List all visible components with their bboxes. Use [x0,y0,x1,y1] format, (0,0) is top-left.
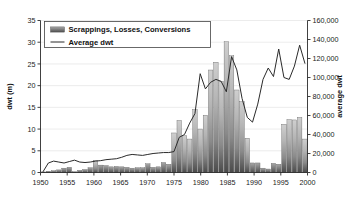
bar [93,160,98,172]
y-axis-title: dwt (m) [5,83,14,110]
bar [235,90,240,173]
x-axis-tick-label: 1970 [139,178,155,187]
y-axis-tick-label: 5 [32,146,36,155]
bar [130,168,135,172]
bar [135,168,140,173]
bar [187,139,192,172]
legend-label: Scrappings, Losses, Conversions [69,25,191,34]
x-axis-tick-label: 1955 [59,178,75,187]
bar [250,163,255,173]
y-axis-tick-label: 35 [28,16,36,25]
y2-axis-tick-label: 60,000 [313,111,335,120]
x-axis-tick-label: 1965 [113,178,129,187]
y2-axis-tick-label: 140,000 [313,35,339,44]
bar [167,164,172,172]
y-axis-tick-label: 20 [28,81,36,90]
bar [98,165,103,172]
x-axis-tick-label: 1960 [86,178,102,187]
x-axis-tick-label: 2000 [300,178,316,187]
x-axis-tick-label: 1990 [246,178,262,187]
bar [177,120,182,172]
bar [172,133,177,173]
bar [245,138,250,172]
y-axis-tick-label: 15 [28,103,36,112]
bar [229,56,234,173]
bar [146,164,151,173]
bar [282,124,287,172]
bar [114,166,119,172]
bar [125,167,130,172]
bar [287,120,292,173]
bar [193,110,198,173]
chart-canvas: 05101520253035020,00040,00060,00080,0001… [0,0,350,203]
chart-figure: 05101520253035020,00040,00060,00080,0001… [0,0,350,203]
bar [198,129,203,172]
y2-axis-title: average dwt [335,75,344,118]
legend-swatch-bar [51,27,65,32]
bar [256,163,261,173]
x-axis-tick-label: 1995 [273,178,289,187]
bar [161,163,166,173]
x-axis-tick-label: 1950 [33,178,49,187]
y2-axis-tick-label: 80,000 [313,92,335,101]
bar [261,168,266,172]
bar [276,164,281,172]
x-axis-tick-label: 1980 [193,178,209,187]
x-axis-tick-label: 1985 [219,178,235,187]
y2-axis-tick-label: 40,000 [313,130,335,139]
bar [271,163,276,172]
bar [240,102,245,173]
bar [219,81,224,172]
y2-axis-tick-label: 160,000 [313,16,339,25]
bar [303,139,308,172]
y-axis-tick-label: 30 [28,38,36,47]
bar [224,42,229,173]
chart-legend: Scrappings, Losses, ConversionsAverage d… [45,22,211,48]
bar [104,166,109,173]
bar [109,167,114,173]
bar [88,168,93,173]
bar [266,169,271,172]
bar [208,70,213,172]
bar [203,115,208,172]
legend-label: Average dwt [69,38,114,47]
y2-axis-tick-label: 0 [313,168,317,177]
bar [140,168,145,173]
bar [182,136,187,173]
bar [119,167,124,173]
bar [151,167,156,172]
bar [156,167,161,173]
y-axis-tick-label: 25 [28,60,36,69]
bar [67,167,72,172]
y2-axis-tick-label: 20,000 [313,149,335,158]
bar [83,169,88,172]
bar [62,168,66,172]
y-axis-tick-label: 0 [32,168,36,177]
x-axis-tick-label: 1975 [166,178,182,187]
bar [214,62,219,172]
bar [292,120,297,173]
bar [297,117,302,172]
y-axis-tick-label: 10 [28,125,36,134]
y2-axis-tick-label: 120,000 [313,54,339,63]
